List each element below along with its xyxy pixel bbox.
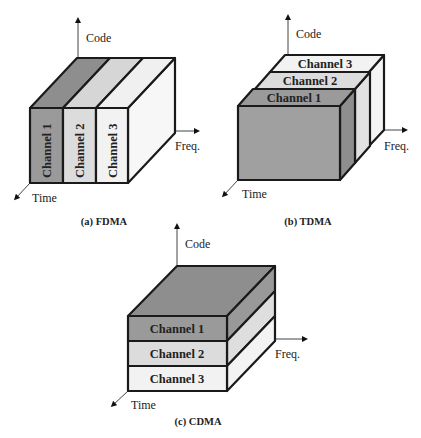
time-axis-label: Time	[242, 187, 267, 201]
channel-2-label: Channel 2	[283, 74, 338, 88]
time-axis-label: Time	[32, 191, 57, 205]
multiple-access-diagram: Code Freq. Time Channel 1 Channel 2 Chan…	[0, 0, 421, 438]
code-axis-label: Code	[296, 27, 321, 41]
caption-tdma: (b) TDMA	[284, 216, 332, 228]
panel-tdma: Code Freq. Time Channel 3 Channel 2 Chan…	[224, 17, 409, 228]
channel-1-label: Channel 1	[267, 91, 322, 105]
freq-axis-label: Freq.	[384, 139, 409, 153]
time-axis-label: Time	[131, 398, 156, 412]
channel-1-label: Channel 1	[150, 322, 205, 336]
code-axis-label: Code	[185, 237, 210, 251]
freq-axis-label: Freq.	[275, 347, 300, 361]
panel-cdma: Code Freq. Time Channel 1 Channel 2 Chan…	[113, 226, 305, 428]
channel-2-label: Channel 2	[73, 123, 87, 178]
channel-1-front-face	[238, 106, 340, 180]
channel-3-label: Channel 3	[150, 372, 205, 386]
channel-3-label: Channel 3	[106, 123, 120, 178]
code-axis-label: Code	[86, 31, 111, 45]
channel-1-label: Channel 1	[40, 123, 54, 178]
time-axis-arrow	[224, 180, 238, 195]
time-axis-arrow	[16, 183, 30, 198]
channel-3-label: Channel 3	[298, 57, 353, 71]
caption-fdma: (a) FDMA	[81, 216, 128, 228]
caption-cdma: (c) CDMA	[175, 416, 222, 428]
panel-fdma: Code Freq. Time Channel 1 Channel 2 Chan…	[16, 20, 200, 228]
time-axis-arrow	[113, 391, 128, 405]
freq-axis-label: Freq.	[175, 139, 200, 153]
channel-2-label: Channel 2	[150, 347, 205, 361]
